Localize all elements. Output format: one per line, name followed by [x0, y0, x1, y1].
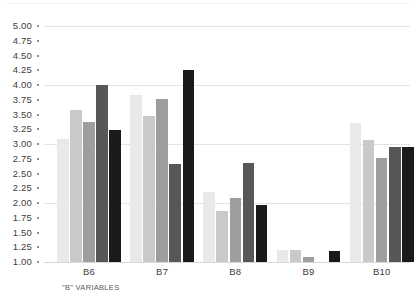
y-axis-tick-mark	[37, 84, 39, 86]
bar-b6-series-4[interactable]	[96, 85, 108, 262]
bar-chart: 5.004.754.504.254.003.753.503.253.002.75…	[0, 0, 414, 302]
bar-b9-series-1[interactable]	[277, 250, 289, 262]
y-axis-tick-mark	[37, 55, 39, 57]
y-axis-tick-mark	[37, 217, 39, 219]
y-axis-tick-mark	[37, 25, 39, 27]
bar-b10-series-1[interactable]	[350, 123, 362, 262]
bar-group-b6	[44, 26, 117, 262]
y-axis-tick-label: 2.00	[13, 198, 32, 208]
y-axis-tick-label: 3.75	[13, 95, 32, 105]
bar-b10-series-5[interactable]	[402, 147, 414, 262]
y-axis-tick-mark	[37, 173, 39, 175]
y-axis-tick-label: 4.75	[13, 36, 32, 46]
y-axis-tick-mark	[37, 143, 39, 145]
header-divider	[6, 3, 410, 4]
y-axis-tick-label: 1.25	[13, 242, 32, 252]
y-axis-tick-label: 4.00	[13, 80, 32, 90]
bar-b6-series-1[interactable]	[57, 139, 69, 262]
y-axis-tick-label: 1.00	[13, 257, 32, 267]
bar-b7-series-4[interactable]	[169, 164, 181, 262]
y-axis-tick-mark	[37, 69, 39, 71]
x-axis-tick-label-b6: B6	[57, 266, 121, 277]
bar-b8-series-3[interactable]	[230, 198, 242, 262]
y-axis-tick-label: 4.50	[13, 51, 32, 61]
y-axis-tick-mark	[37, 187, 39, 189]
y-axis-tick-mark	[37, 261, 39, 263]
y-axis-tick-label: 1.50	[13, 228, 32, 238]
y-axis-tick-label: 4.25	[13, 65, 32, 75]
bar-b8-series-1[interactable]	[203, 192, 215, 262]
y-axis-tick-label: 1.75	[13, 213, 32, 223]
bar-group-b8	[190, 26, 263, 262]
bar-b10-series-4[interactable]	[389, 147, 401, 262]
y-axis-tick-mark	[37, 202, 39, 204]
bar-b6-series-3[interactable]	[83, 122, 95, 262]
y-axis: 5.004.754.504.254.003.753.503.253.002.75…	[0, 0, 44, 302]
bar-group-b7	[117, 26, 190, 262]
x-axis-tick-label-b9: B9	[277, 266, 341, 277]
bar-b7-series-3[interactable]	[156, 99, 168, 262]
bar-b10-series-2[interactable]	[363, 140, 375, 262]
y-axis-tick-mark	[37, 40, 39, 42]
bar-b8-series-2[interactable]	[216, 211, 228, 262]
bar-b9-series-2[interactable]	[290, 250, 302, 262]
plot-area	[44, 26, 410, 262]
y-axis-tick-label: 5.00	[13, 21, 32, 31]
y-axis-tick-label: 2.50	[13, 169, 32, 179]
y-axis-tick-label: 3.25	[13, 124, 32, 134]
y-axis-tick-mark	[37, 128, 39, 130]
y-axis-tick-mark	[37, 99, 39, 101]
y-axis-tick-label: 3.50	[13, 110, 32, 120]
bar-b6-series-2[interactable]	[70, 110, 82, 262]
bar-b7-series-2[interactable]	[143, 116, 155, 262]
y-axis-tick-mark	[37, 246, 39, 248]
x-axis-tick-label-b7: B7	[130, 266, 194, 277]
y-axis-tick-mark	[37, 114, 39, 116]
bar-b7-series-1[interactable]	[130, 95, 142, 262]
y-axis-tick-mark	[37, 158, 39, 160]
x-axis-tick-label-b10: B10	[350, 266, 414, 277]
bar-group-b9	[264, 26, 337, 262]
y-axis-tick-label: 2.25	[13, 183, 32, 193]
y-axis-tick-label: 2.75	[13, 154, 32, 164]
y-axis-tick-mark	[37, 232, 39, 234]
x-axis-title: "B" VARIABLES	[62, 283, 119, 292]
x-axis-line	[44, 262, 410, 263]
bar-b8-series-4[interactable]	[243, 163, 255, 262]
bar-group-b10	[337, 26, 410, 262]
x-axis-tick-label-b8: B8	[203, 266, 267, 277]
bar-b10-series-3[interactable]	[376, 158, 388, 262]
x-axis: B6B7B8B9B10	[44, 266, 410, 282]
y-axis-tick-label: 3.00	[13, 139, 32, 149]
